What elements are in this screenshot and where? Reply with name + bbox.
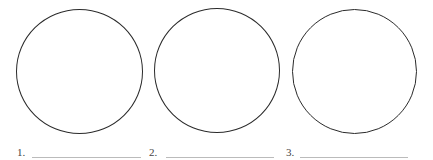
item-number-3: 3.: [286, 146, 294, 158]
answer-line-3[interactable]: [300, 157, 408, 158]
answer-line-2[interactable]: [166, 157, 274, 158]
circle-2: [154, 8, 280, 133]
answer-line-1[interactable]: [32, 157, 141, 158]
item-number-2: 2.: [149, 146, 157, 158]
item-number-1: 1.: [17, 146, 25, 158]
circle-1: [16, 9, 143, 134]
circle-3: [292, 9, 417, 134]
